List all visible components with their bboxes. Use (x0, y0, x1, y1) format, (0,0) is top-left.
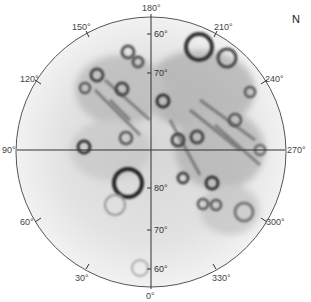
lon-label-330: 330° (212, 274, 231, 283)
lon-label-270: 270° (287, 146, 306, 155)
polar-map (0, 0, 311, 302)
lon-label-180: 180° (142, 4, 161, 13)
lat-label-70-top: 70° (154, 69, 168, 78)
lon-label-150: 150° (72, 23, 91, 32)
lon-label-90: 90° (2, 146, 16, 155)
lat-label-60-top: 60° (154, 30, 168, 39)
lon-label-30: 30° (75, 274, 89, 283)
lon-label-120: 120° (20, 75, 39, 84)
lon-label-60: 60° (20, 218, 34, 227)
hemisphere-label: N (292, 13, 300, 25)
lon-label-300: 300° (266, 218, 285, 227)
lat-label-60-bottom: 60° (154, 265, 168, 274)
lon-label-210: 210° (214, 23, 233, 32)
lat-label-80: 80° (154, 184, 168, 193)
lon-label-240: 240° (265, 75, 284, 84)
lon-label-0: 0° (146, 292, 155, 301)
lat-label-70-bottom: 70° (154, 226, 168, 235)
